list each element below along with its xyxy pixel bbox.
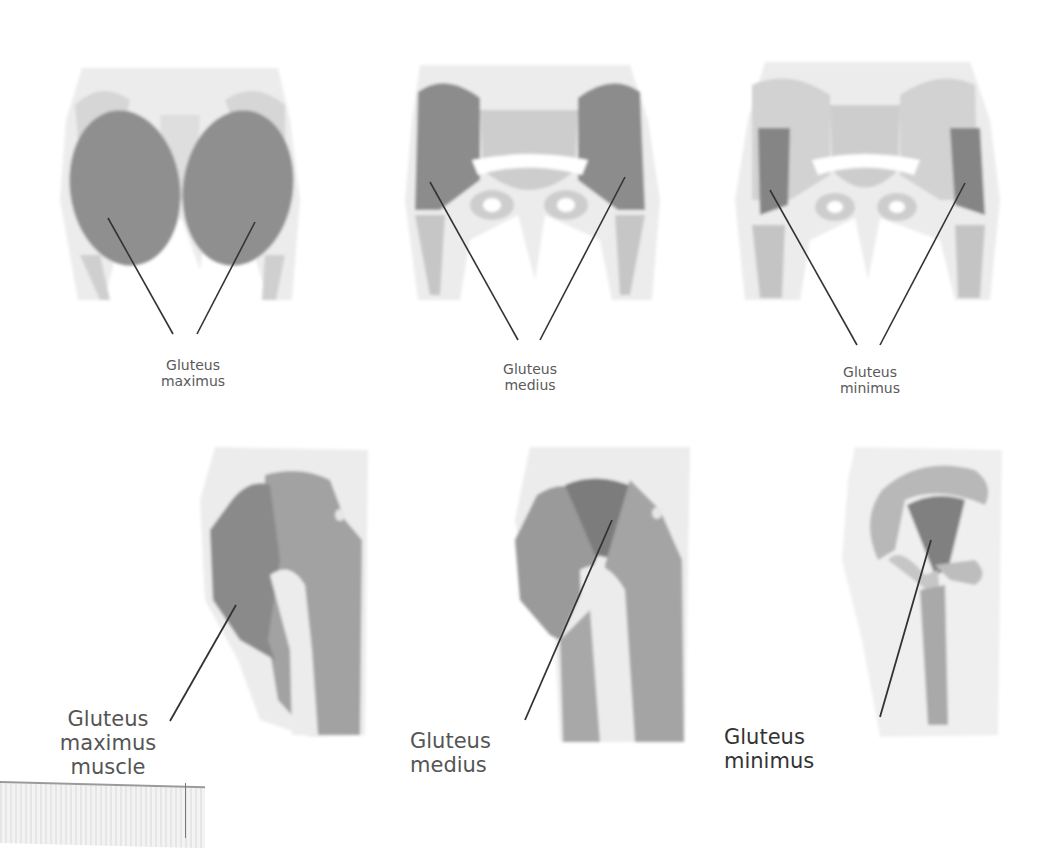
book-page-edge xyxy=(0,781,205,848)
illustration-posterior-maximus xyxy=(60,68,304,300)
label-posterior-gluteus-medius: Gluteus medius xyxy=(480,361,580,393)
label-lateral-gluteus-medius: Gluteus medius xyxy=(410,729,520,777)
illustration-posterior-minimus xyxy=(735,62,1000,300)
illustration-lateral-maximus xyxy=(200,447,368,737)
label-posterior-gluteus-minimus: Gluteus minimus xyxy=(820,364,920,396)
page-fold-line xyxy=(185,783,186,838)
illustration-lateral-medius xyxy=(515,447,690,742)
label-lateral-gluteus-minimus: Gluteus minimus xyxy=(724,725,834,773)
label-posterior-gluteus-maximus: Gluteus maximus xyxy=(143,357,243,389)
label-lateral-gluteus-maximus-muscle: Gluteus maximus muscle xyxy=(48,707,168,779)
leader-line xyxy=(170,605,236,721)
illustration-lateral-minimus xyxy=(842,447,1002,737)
